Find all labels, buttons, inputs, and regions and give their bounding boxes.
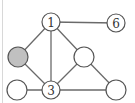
node-label: 3 — [47, 84, 55, 98]
edges — [17, 22, 116, 90]
graph-node-nMid — [74, 47, 94, 67]
node-circle — [7, 80, 27, 100]
graph-node-6: 6 — [107, 14, 125, 32]
graph-node-1: 1 — [42, 13, 60, 31]
graph-node-nBR — [106, 80, 126, 100]
edge-n1-n6 — [51, 22, 116, 23]
graph-node-3: 3 — [42, 81, 60, 99]
node-label: 6 — [112, 17, 120, 31]
graph-diagram: 163 — [0, 0, 135, 103]
highlighted-node-circle — [8, 47, 28, 67]
graph-node-nGrey — [8, 47, 28, 67]
graph-node-nBL — [7, 80, 27, 100]
node-circle — [74, 47, 94, 67]
node-label: 1 — [47, 16, 55, 30]
node-circle — [106, 80, 126, 100]
graph-canvas: 163 — [0, 0, 135, 103]
nodes: 163 — [7, 13, 126, 100]
